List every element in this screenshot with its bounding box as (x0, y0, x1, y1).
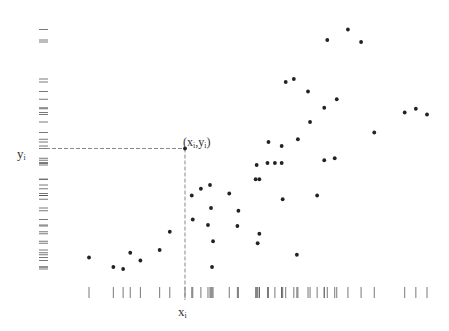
data-point (210, 265, 214, 269)
data-point (281, 197, 285, 201)
data-point (295, 253, 299, 257)
data-point (403, 111, 407, 115)
data-point (322, 106, 326, 110)
data-point (257, 232, 261, 236)
data-point (199, 187, 203, 191)
data-point (266, 161, 270, 165)
data-point (168, 230, 172, 234)
data-point (191, 218, 195, 222)
data-point (292, 77, 296, 81)
x-label-subscript: i (185, 311, 187, 320)
data-point (227, 192, 231, 196)
data-point (235, 224, 239, 228)
data-point (211, 239, 215, 243)
data-point (190, 194, 194, 198)
y-axis-label: yi (17, 147, 26, 162)
x-axis-rug (89, 287, 427, 298)
data-points (87, 28, 429, 271)
data-point (280, 161, 284, 165)
data-point (257, 177, 261, 181)
data-point (296, 137, 300, 141)
data-point (315, 194, 319, 198)
data-point (111, 265, 115, 269)
point-label-part: ) (206, 135, 210, 149)
data-point (254, 177, 258, 181)
data-point (425, 113, 429, 117)
data-point (359, 40, 363, 44)
data-point (236, 209, 240, 213)
data-point (255, 163, 259, 167)
data-point (306, 90, 310, 94)
data-point (325, 38, 329, 42)
data-point (280, 144, 284, 148)
data-point (273, 161, 277, 165)
y-axis-rug (39, 30, 48, 270)
y-label-subscript: i (24, 153, 26, 162)
point-label-part: (x (183, 135, 193, 149)
data-point (284, 80, 288, 84)
data-point (121, 267, 125, 271)
data-point (322, 158, 326, 162)
data-point (208, 183, 212, 187)
data-point (308, 120, 312, 124)
data-point (414, 107, 418, 111)
data-point (138, 259, 142, 263)
point-label-part: ,y (195, 135, 204, 149)
data-point (346, 28, 350, 32)
data-point (87, 256, 91, 260)
data-point (209, 206, 213, 210)
data-point (128, 251, 132, 255)
x-axis-label: xi (178, 305, 187, 320)
data-point (333, 156, 337, 160)
highlight-projection-lines (40, 149, 185, 301)
data-point (256, 241, 260, 245)
scatter-plot (0, 0, 449, 331)
data-point (372, 131, 376, 135)
highlight-point-label: (xi,yi) (183, 136, 210, 150)
data-point (335, 97, 339, 101)
data-point (267, 140, 271, 144)
data-point (206, 223, 210, 227)
data-point (158, 248, 162, 252)
